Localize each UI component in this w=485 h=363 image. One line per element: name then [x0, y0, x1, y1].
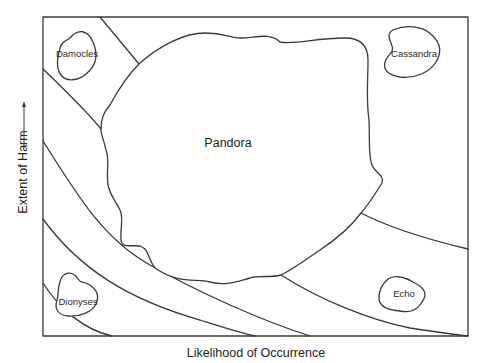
region-pandora-outline — [101, 33, 383, 284]
label-damocles: Damocles — [56, 48, 98, 59]
region-dionyses-outline — [56, 273, 98, 316]
label-cassandra: Cassandra — [391, 48, 438, 59]
boundary-curve-7 — [281, 275, 468, 336]
boundary-curve-6 — [361, 213, 468, 249]
y-axis-label: Extent of Harm — [16, 130, 30, 213]
y-axis-label-group: Extent of Harm — [16, 130, 30, 213]
label-pandora: Pandora — [204, 136, 251, 150]
label-dionyses: Dionyses — [58, 296, 97, 307]
label-echo: Echo — [393, 288, 415, 299]
boundary-curve-1 — [100, 17, 139, 64]
x-axis-label: Likelihood of Occurrence — [187, 346, 325, 360]
risk-map-diagram: Damocles Cassandra Pandora Dionyses Echo… — [0, 0, 485, 363]
